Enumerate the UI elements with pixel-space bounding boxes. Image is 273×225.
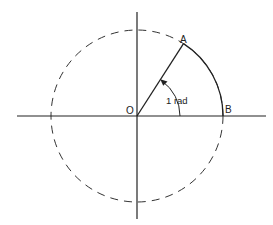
label-angle: 1 rad (166, 95, 188, 106)
label-origin: O (126, 105, 134, 116)
label-point-a: A (180, 34, 187, 45)
diagram-svg: O A B 1 rad (0, 0, 273, 225)
arc-ab (184, 44, 224, 116)
radian-diagram: O A B 1 rad (0, 0, 273, 225)
label-point-b: B (225, 104, 232, 115)
